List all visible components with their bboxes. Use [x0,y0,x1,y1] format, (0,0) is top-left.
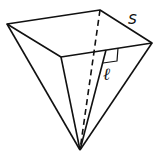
edge-front [61,57,80,150]
slant-height-label: ℓ [103,64,110,85]
edge-left [7,24,80,150]
side-label: s [128,8,137,28]
edge-right [80,43,152,150]
edge-back-hidden [80,10,100,150]
pyramid-diagram: s ℓ [0,0,154,163]
